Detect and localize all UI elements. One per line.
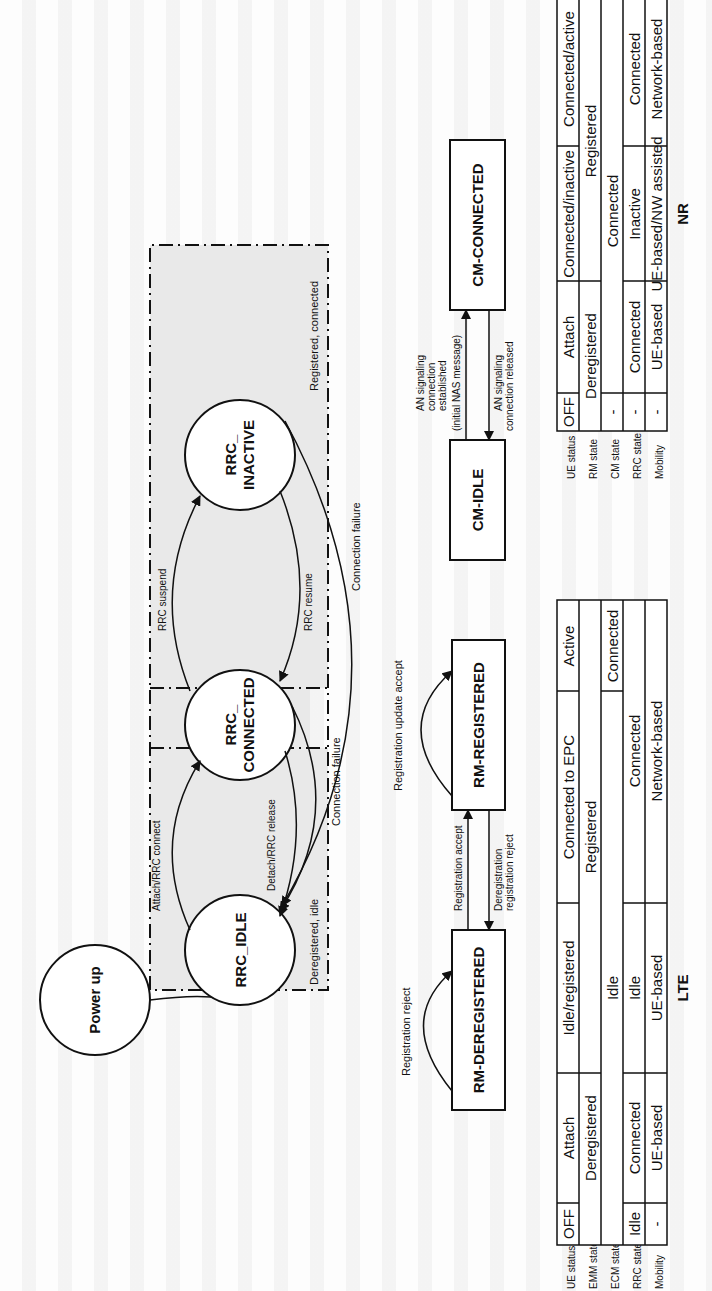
table-cell: Attach — [560, 316, 577, 359]
row-label: Mobility — [654, 1255, 665, 1289]
table-cell: Connected — [626, 301, 643, 374]
state-cm-idle: CM-IDLE — [450, 440, 505, 560]
nr-table: UE status RM state CM state RRC state Mo… — [557, 0, 691, 479]
table-cell: Idle/registered — [560, 940, 577, 1035]
label-registration-update-accept: Registration update accept — [392, 660, 404, 791]
state-cm-connected: CM-CONNECTED — [450, 140, 505, 310]
table-cell: - — [626, 410, 643, 415]
table-cell: Connected — [604, 610, 621, 683]
table-cell: Inactive — [626, 188, 643, 240]
label-an-established: AN signaling — [415, 355, 426, 411]
label-deregistration: registration reject — [504, 834, 515, 911]
table-cell: Idle — [604, 976, 621, 1000]
table-cell: Connected/active — [560, 11, 577, 127]
state-label: CM-IDLE — [469, 469, 486, 532]
state-rrc-inactive: RRC_ INACTIVE — [185, 400, 295, 510]
table-cell: Attach — [560, 1117, 577, 1160]
state-rm-registered: RM-REGISTERED — [452, 640, 505, 810]
state-label: CM-CONNECTED — [469, 163, 486, 286]
table-cell: UE-based/NW assisted — [648, 136, 665, 291]
rotated-figure: Deregistered, idle Registered, connected… — [0, 0, 712, 1291]
label-an-released: AN signaling — [493, 355, 504, 411]
row-label: UE status — [566, 436, 577, 479]
state-rm-deregistered: RM-DEREGISTERED — [452, 930, 505, 1110]
state-rrc-idle: RRC_IDLE — [185, 895, 295, 1005]
label-rrc-suspend: RRC suspend — [157, 569, 168, 631]
label-an-established: connection — [426, 363, 437, 411]
table-cell: Connected — [626, 33, 643, 106]
table-cell: Connected — [626, 1102, 643, 1175]
state-label: RM-DEREGISTERED — [470, 947, 487, 1094]
row-label: RRC state — [632, 1242, 643, 1289]
label-registration-accept: Registration accept — [453, 825, 464, 911]
state-power-up: Power up — [40, 945, 150, 1055]
table-cell: Network-based — [648, 19, 665, 120]
table-cell: OFF — [560, 1209, 577, 1239]
table-cell: OFF — [560, 397, 577, 427]
row-label: EMM state — [588, 1241, 599, 1289]
label-detach-release: Detach/RRC release — [266, 799, 277, 891]
label-an-established: (initial NAS message) — [451, 335, 462, 431]
state-label: Power up — [86, 966, 103, 1034]
state-label: INACTIVE — [240, 420, 257, 490]
table-cell: - — [604, 410, 621, 415]
row-label: UE status — [566, 1246, 577, 1289]
table-cell: Active — [560, 626, 577, 667]
row-label: Mobility — [654, 445, 665, 479]
label-deregistration: Deregistration — [493, 849, 504, 911]
label-an-released: connection released — [504, 341, 515, 431]
state-label: RM-REGISTERED — [470, 662, 487, 788]
table-cell: Deregistered — [582, 313, 599, 399]
state-label: RRC_IDLE — [232, 912, 249, 987]
table-cell: - — [648, 410, 665, 415]
table-cell: Idle — [626, 976, 643, 1000]
table-cell: - — [648, 1222, 665, 1227]
label-registration-reject: Registration reject — [400, 987, 412, 1076]
row-label: ECM state — [610, 1242, 621, 1289]
table-cell: Connected — [604, 175, 621, 248]
rrc-region: Deregistered, idle Registered, connected — [150, 245, 328, 990]
table-title: LTE — [674, 974, 691, 1001]
row-label: RM state — [588, 439, 599, 479]
region-label-registered-connected: Registered, connected — [308, 281, 320, 391]
table-cell: Registered — [582, 105, 599, 178]
document-page: Deregistered, idle Registered, connected… — [0, 0, 712, 1291]
table-cell: UE-based — [648, 1105, 665, 1172]
state-label: CONNECTED — [240, 677, 257, 772]
table-cell: Deregistered — [582, 1095, 599, 1181]
table-cell: Connected to EPC — [560, 735, 577, 859]
state-label: RRC_ — [222, 704, 239, 745]
state-label: RRC_ — [222, 434, 239, 475]
row-label: CM state — [610, 439, 621, 479]
label-rrc-resume: RRC resume — [303, 573, 314, 631]
state-rrc-connected: RRC_ CONNECTED — [185, 670, 295, 780]
table-cell: Idle — [626, 1212, 643, 1236]
registration-update-accept-loop — [421, 671, 452, 796]
table-cell: UE-based — [648, 304, 665, 371]
region-label-deregistered-idle: Deregistered, idle — [308, 899, 320, 985]
state-diagram: Deregistered, idle Registered, connected… — [0, 0, 712, 1291]
lte-table: UE status EMM state ECM state RRC state … — [557, 600, 691, 1289]
row-label: RRC state — [632, 432, 643, 479]
table-cell: Registered — [582, 801, 599, 874]
table-cell: Connected/inactive — [560, 150, 577, 278]
registration-reject-loop — [424, 971, 453, 1091]
table-cell: UE-based — [648, 955, 665, 1022]
label-an-established: established — [437, 360, 448, 411]
table-cell: Connected — [626, 715, 643, 788]
label-attach-connect: Attach/RRC connect — [151, 820, 162, 911]
table-cell: Network-based — [648, 701, 665, 802]
table-title: NR — [674, 203, 691, 225]
label-connection-failure-2: Connection failure — [350, 502, 362, 591]
